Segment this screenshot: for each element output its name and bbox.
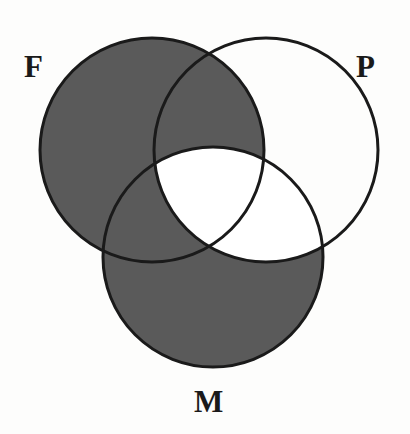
set-label-M: M (194, 386, 224, 417)
set-label-P: P (356, 51, 375, 82)
set-label-F: F (24, 51, 43, 82)
venn-diagram-figure: F P M (0, 0, 410, 434)
venn-svg-canvas (0, 0, 410, 434)
